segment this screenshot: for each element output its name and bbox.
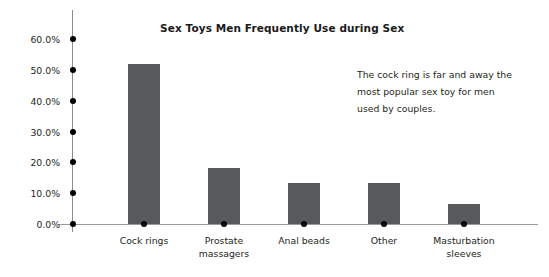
y-tick-dot: [70, 36, 76, 42]
y-tick-dot: [70, 221, 76, 227]
x-axis-label-line: Masturbation: [416, 235, 512, 248]
y-tick-dot: [70, 129, 76, 135]
y-tick-label: 40.0%: [16, 95, 60, 106]
y-tick-dot: [70, 67, 76, 73]
plot-area: 0.0%10.0%20.0%30.0%40.0%50.0%60.0% Cock …: [0, 0, 549, 277]
x-tick-dot: [381, 221, 387, 227]
y-tick-label: 60.0%: [16, 34, 60, 45]
bar: [208, 168, 240, 224]
y-tick-label: 20.0%: [16, 157, 60, 168]
bar-chart-figure: Sex Toys Men Frequently Use during Sex T…: [0, 0, 549, 277]
x-tick-dot: [301, 221, 307, 227]
x-tick-dot: [461, 221, 467, 227]
bar: [368, 183, 400, 224]
y-tick-dot: [70, 159, 76, 165]
x-tick-dot: [141, 221, 147, 227]
x-axis-label-line: sleeves: [416, 248, 512, 261]
y-axis-line: [72, 10, 73, 232]
y-tick-label: 0.0%: [16, 219, 60, 230]
y-tick-label: 30.0%: [16, 126, 60, 137]
y-tick-label: 50.0%: [16, 64, 60, 75]
y-tick-dot: [70, 98, 76, 104]
x-tick-dot: [221, 221, 227, 227]
y-tick-label: 10.0%: [16, 188, 60, 199]
x-axis-label-line: massagers: [176, 248, 272, 261]
x-axis-label: Masturbationsleeves: [416, 235, 512, 260]
bar: [128, 64, 160, 224]
y-tick-dot: [70, 190, 76, 196]
bar: [288, 183, 320, 224]
